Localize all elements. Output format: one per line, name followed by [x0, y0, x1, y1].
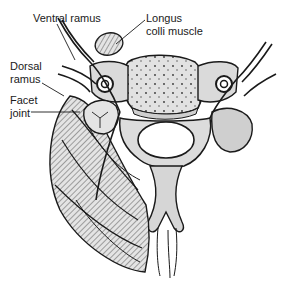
label-ventral-ramus: Ventral ramus: [33, 12, 101, 25]
vertebra-illustration: [0, 0, 291, 282]
right-articular-process: [212, 108, 253, 152]
spinal-canal: [120, 118, 211, 168]
vertebral-body: [123, 55, 203, 119]
spinous-process: [148, 166, 184, 278]
longus-colli-muscle: [93, 30, 126, 58]
label-dorsal-ramus: Dorsal ramus: [10, 60, 42, 86]
label-facet-joint: Facet joint: [10, 94, 38, 120]
label-longus-colli-muscle: Longus colli muscle: [146, 12, 203, 38]
anatomical-diagram: Ventral ramus Longus colli muscle Dorsal…: [0, 0, 291, 282]
